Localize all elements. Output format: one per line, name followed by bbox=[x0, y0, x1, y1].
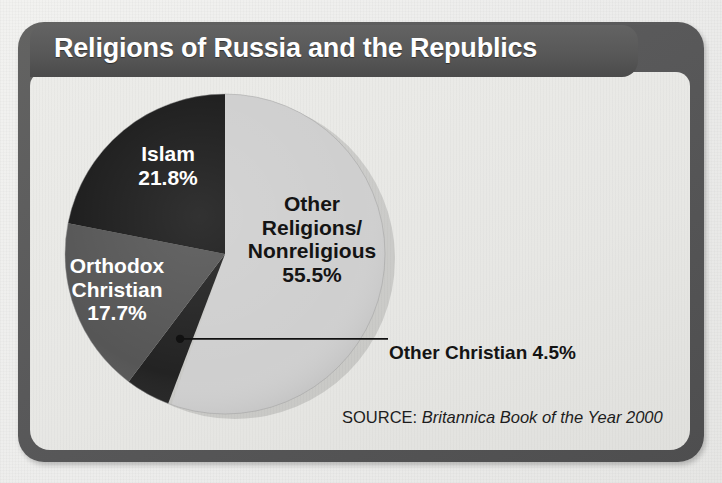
page-title: Religions of Russia and the Republics bbox=[54, 33, 537, 64]
source-prefix: SOURCE: bbox=[342, 408, 422, 426]
source-publication: Britannica Book of the Year 2000 bbox=[422, 408, 663, 426]
pie-chart-figure: Religions of Russia and the Republics bbox=[0, 0, 722, 483]
pie-shading-overlay bbox=[65, 94, 385, 414]
source-note: SOURCE: Britannica Book of the Year 2000 bbox=[342, 408, 663, 427]
pie-label-other-christian: Other Christian 4.5% bbox=[389, 342, 576, 364]
pie-chart-area bbox=[30, 72, 690, 450]
pie-chart-svg bbox=[30, 72, 690, 450]
leader-dot-other-christian bbox=[176, 335, 184, 343]
